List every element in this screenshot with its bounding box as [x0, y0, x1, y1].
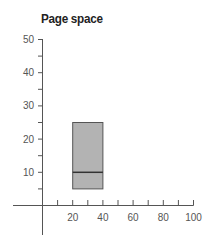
chart-plot-area: 102030405020406080100: [0, 0, 208, 241]
y-tick-label: 10: [23, 167, 35, 178]
y-tick-label: 30: [23, 100, 35, 111]
box-0: [73, 123, 103, 189]
x-tick-label: 100: [185, 212, 202, 223]
y-tick-label: 20: [23, 134, 35, 145]
x-tick-label: 80: [158, 212, 170, 223]
y-tick-label: 40: [23, 67, 35, 78]
x-tick-label: 40: [97, 212, 109, 223]
x-tick-label: 20: [67, 212, 79, 223]
x-tick-label: 60: [128, 212, 140, 223]
y-tick-label: 50: [23, 34, 35, 45]
